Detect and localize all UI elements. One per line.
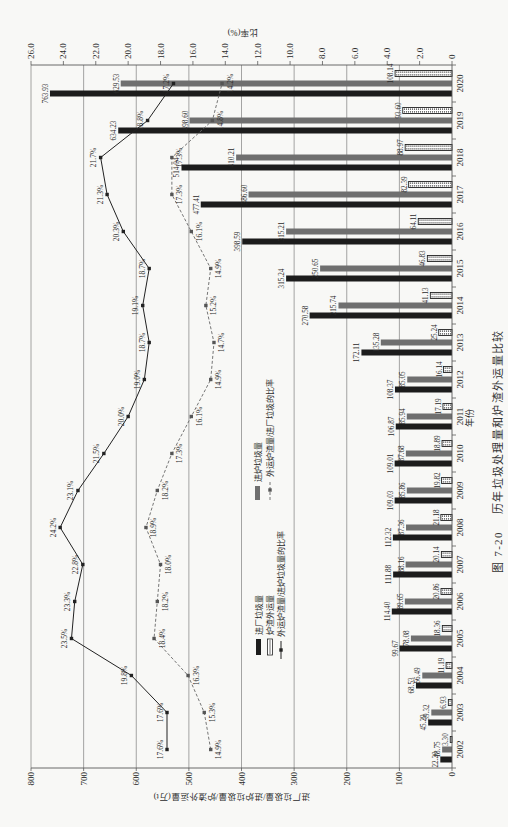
slag-to-furnace-ratio-marker: [76, 489, 79, 492]
legend-label-slag-to-plant-ratio: 外运炉渣量/进厂垃圾的比率: [265, 379, 275, 477]
legend-label-slag-output: 炉渣外运量: [265, 595, 275, 635]
plant-intake-value-label: 111.88: [385, 564, 393, 584]
plant-intake-value-label: 172.11: [353, 342, 361, 362]
slag-output-value-label: 3.30: [442, 733, 450, 746]
slag-to-plant-ratio-value-label: 18.9%: [149, 518, 158, 537]
furnace-intake-value-label: 215.74: [330, 295, 338, 315]
y2-tick-label: 26.0: [26, 43, 36, 59]
figure-number: 图 7-20: [492, 531, 504, 573]
plant-intake-bar: [181, 165, 452, 171]
slag-to-furnace-ratio-marker: [81, 563, 84, 566]
slag-to-plant-ratio-value-label: 16.1%: [195, 222, 204, 241]
y2-tick-label: 10.0: [285, 43, 295, 59]
furnace-intake-bar: [411, 636, 452, 642]
x-tick-label: 2006: [455, 592, 465, 611]
plant-intake-value-label: 108.37: [387, 379, 395, 399]
slag-output-bar: [427, 256, 452, 262]
slag-to-plant-ratio-value-label: 17.3%: [175, 185, 184, 204]
furnace-intake-bar: [338, 303, 452, 309]
legend-item-plant-intake: 进厂垃圾量: [254, 595, 264, 655]
figure-caption: 历年垃圾处理量和炉渣外运量比较: [491, 330, 504, 515]
slag-to-plant-ratio-marker: [211, 119, 214, 122]
slag-output-bar: [439, 330, 452, 336]
plant-intake-value-label: 315.24: [278, 268, 286, 288]
x-tick-label: 2012: [455, 371, 465, 389]
slag-output-value-label: 18.36: [434, 620, 442, 637]
legend-item-slag-output: 炉渣外运量: [265, 595, 275, 655]
slag-output-bar: [418, 219, 452, 225]
slag-output-bar: [442, 626, 452, 632]
slag-to-plant-ratio-value-label: 16.3%: [192, 666, 201, 685]
y2-tick-label: 24.0: [58, 43, 68, 59]
slag-to-furnace-ratio-value-label: 23.1%: [66, 481, 75, 500]
slag-to-plant-ratio-marker: [190, 415, 193, 418]
slag-to-plant-ratio-value-label: 18.4%: [158, 629, 167, 648]
y-axis-title: 进厂垃圾量/进炉垃圾量/炉渣外运量(万t): [153, 792, 310, 802]
slag-output-bar: [448, 700, 452, 706]
slag-to-furnace-ratio-marker: [148, 341, 151, 344]
furnace-intake-bar: [431, 710, 452, 716]
slag-output-bar: [441, 515, 452, 521]
furnace-intake-bar: [407, 414, 452, 420]
plant-intake-value-label: 109.03: [387, 490, 395, 510]
slag-output-bar: [441, 589, 452, 595]
slag-to-furnace-ratio-marker: [99, 156, 102, 159]
furnace-intake-bar: [249, 192, 452, 198]
furnace-intake-value-label: 315.21: [278, 221, 286, 241]
furnace-intake-bar: [407, 377, 452, 383]
slag-output-bar: [409, 182, 452, 188]
y2-axis-title: 比率(%): [227, 28, 258, 38]
x-tick-label: 2005: [455, 629, 465, 648]
plant-intake-value-label: 270.58: [302, 305, 310, 325]
slag-to-furnace-ratio-value-label: 17.6%: [156, 740, 165, 759]
slag-to-plant-ratio-marker: [209, 378, 212, 381]
x-tick-label: 2018: [455, 148, 465, 167]
slag-to-furnace-ratio-marker: [70, 637, 73, 640]
slag-to-plant-ratio-value-label: 17.3%: [175, 148, 184, 167]
slag-to-plant-ratio-marker: [203, 711, 206, 714]
furnace-intake-value-label: 250.65: [312, 258, 320, 278]
slag-to-plant-ratio-marker: [204, 304, 207, 307]
x-tick-label: 2010: [455, 444, 465, 463]
slag-to-plant-ratio-marker: [209, 267, 212, 270]
y2-tick-label: 12.0: [253, 43, 263, 59]
furnace-intake-bar: [236, 155, 452, 161]
furnace-intake-bar: [320, 266, 452, 272]
legend-swatch-furnace-intake: [255, 486, 260, 500]
y2-tick-label: 2.0: [415, 47, 425, 59]
y2-tick-label: 22.0: [91, 43, 101, 59]
furnace-intake-value-label: 629.53: [113, 73, 121, 93]
x-tick-label: 2020: [455, 74, 465, 93]
slag-to-plant-ratio-marker: [190, 230, 193, 233]
x-axis-title: 年份: [464, 409, 475, 427]
x-tick-label: 2007: [455, 555, 465, 574]
x-tick-label: 2009: [455, 481, 465, 500]
y-tick-label: 0: [447, 772, 457, 777]
furnace-intake-value-label: 88.16: [398, 556, 406, 573]
slag-to-plant-ratio-value-label: 18.2%: [161, 481, 170, 500]
y-tick-label: 300: [289, 772, 299, 786]
slag-output-value-label: 25.24: [431, 324, 439, 341]
slag-output-value-label: 64.11: [410, 213, 418, 229]
furnace-intake-value-label: 85.86: [399, 482, 407, 499]
x-tick-label: 2019: [455, 111, 465, 130]
slag-output-bar: [442, 478, 452, 484]
plant-intake-value-label: 477.41: [193, 194, 201, 214]
legend-swatch-dashed-marker: [268, 488, 271, 491]
slag-to-furnace-ratio-value-label: 21.5%: [92, 444, 101, 463]
x-tick-label: 2008: [455, 518, 465, 537]
furnace-intake-value-label: 87.36: [398, 519, 406, 536]
slag-to-plant-ratio-value-label: 17.3%: [175, 444, 184, 463]
y-tick-label: 800: [26, 772, 36, 786]
y2-tick-label: 0: [447, 54, 457, 59]
slag-output-bar: [403, 108, 452, 114]
slag-output-value-label: 18.89: [434, 435, 442, 452]
slag-to-plant-ratio-line: [146, 84, 222, 750]
slag-to-plant-ratio-value-label: 15.2%: [209, 296, 218, 315]
furnace-intake-bar: [286, 229, 452, 235]
slag-to-furnace-ratio-value-label: 18.7%: [138, 333, 147, 352]
slag-output-bar: [442, 441, 452, 447]
furnace-intake-value-label: 386.60: [241, 184, 249, 204]
plant-intake-value-label: 106.87: [388, 416, 396, 436]
slag-to-furnace-ratio-marker: [165, 711, 168, 714]
